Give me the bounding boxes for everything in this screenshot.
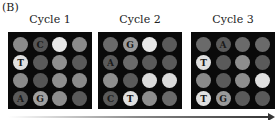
- cluster-dot: [13, 37, 28, 52]
- cluster-dot: [142, 91, 157, 106]
- cluster-dot: [123, 73, 138, 88]
- cluster-dot: [162, 73, 177, 88]
- cluster-dot: [255, 55, 270, 70]
- flow-cell-panel: GACT: [98, 32, 182, 109]
- cluster-dot: [33, 55, 48, 70]
- cluster-dot: A: [216, 37, 231, 52]
- cluster-dot: T: [196, 55, 211, 70]
- cluster-dot: [216, 55, 231, 70]
- cycle-title: Cycle 2: [97, 13, 183, 26]
- cluster-dot: [196, 73, 211, 88]
- cluster-dot: [52, 37, 67, 52]
- cluster-dot: [235, 73, 250, 88]
- flow-cell-panel: ATTG: [191, 32, 275, 109]
- cluster-dot: [13, 73, 28, 88]
- cycle-title: Cycle 3: [190, 13, 276, 26]
- cluster-dot: [72, 91, 87, 106]
- cluster-dot: [52, 73, 67, 88]
- cluster-dot: [142, 55, 157, 70]
- cluster-dot: [123, 55, 138, 70]
- cluster-dot: C: [33, 37, 48, 52]
- cluster-dot: [162, 55, 177, 70]
- cycle-title: Cycle 1: [7, 13, 93, 26]
- cluster-dot: [103, 73, 118, 88]
- cluster-dot: [216, 73, 231, 88]
- cluster-dot: [72, 37, 87, 52]
- cluster-dot: [142, 37, 157, 52]
- cluster-dot: [235, 55, 250, 70]
- cluster-dot: [235, 37, 250, 52]
- cluster-dot: [142, 73, 157, 88]
- cluster-dot: [255, 37, 270, 52]
- cluster-dot: [255, 91, 270, 106]
- cluster-dot: [103, 37, 118, 52]
- cluster-dot: [52, 91, 67, 106]
- cluster-dot: A: [103, 55, 118, 70]
- cluster-dot: [33, 73, 48, 88]
- cluster-dot: C: [103, 91, 118, 106]
- cluster-dot: [235, 91, 250, 106]
- cluster-dot: T: [13, 55, 28, 70]
- cluster-dot: T: [196, 91, 211, 106]
- cluster-dot: G: [216, 91, 231, 106]
- flow-cell-panel: CTAG: [8, 32, 92, 109]
- cluster-dot: A: [13, 91, 28, 106]
- cluster-dot: [162, 91, 177, 106]
- time-arrow: [8, 116, 270, 118]
- cluster-dot: [162, 37, 177, 52]
- cluster-dot: G: [123, 37, 138, 52]
- cluster-dot: G: [33, 91, 48, 106]
- arrow-head-icon: [268, 113, 275, 120]
- cluster-dot: [52, 55, 67, 70]
- cluster-dot: [196, 37, 211, 52]
- cluster-dot: [72, 73, 87, 88]
- cluster-dot: T: [123, 91, 138, 106]
- cluster-dot: [72, 55, 87, 70]
- cluster-dot: [255, 73, 270, 88]
